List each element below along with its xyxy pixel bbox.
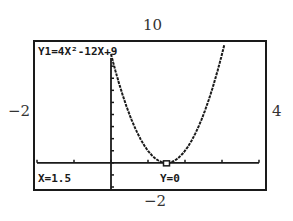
equation-label: Y1=4X²-12X+9: [38, 45, 117, 58]
calculator-graph-screen: Y1=4X²-12X+9 X=1.5 Y=0: [33, 40, 267, 191]
trace-x-value: X=1.5: [38, 172, 71, 185]
xmax-label: 4: [272, 104, 282, 119]
xmin-label: −2: [8, 104, 30, 119]
ymin-label: −2: [144, 194, 166, 209]
trace-cursor: [164, 161, 170, 166]
ymax-label: 10: [143, 18, 162, 33]
axes: [37, 58, 259, 189]
trace-y-value: Y=0: [160, 172, 180, 185]
graph-canvas: Y1=4X²-12X+9 X=1.5 Y=0: [35, 42, 265, 189]
function-curve: [111, 45, 224, 163]
